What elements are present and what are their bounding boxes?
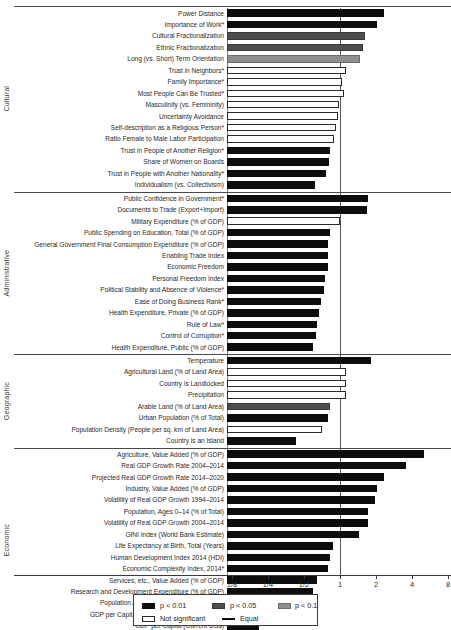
bar-track [227, 472, 451, 483]
chart-row: Population, Ages 0–14 (% of Total) [0, 506, 451, 517]
bar [227, 78, 342, 86]
bar [227, 414, 328, 422]
chart-row: Military Expenditure (% of GDP) [0, 216, 451, 227]
row-label: Cultural Fractionalization [152, 30, 224, 41]
bar-track [227, 378, 451, 389]
bar [227, 496, 375, 504]
bar [227, 309, 319, 317]
bar-track [227, 563, 451, 574]
row-label: Documents to Trade (Export+Import) [117, 204, 224, 215]
x-tick [448, 575, 449, 579]
row-label: Ratio Female to Male Labor Participation [105, 133, 224, 144]
bar [227, 450, 424, 458]
bar [227, 462, 406, 470]
bar-track [227, 53, 451, 64]
chart-row: Political Stability and Absence of Viole… [0, 284, 451, 295]
group-separator [14, 192, 451, 193]
bar [227, 21, 377, 29]
legend-swatch-equal [222, 618, 235, 620]
legend-label-equal: Equal [240, 614, 258, 623]
chart-row: Most People Can Be Trusted* [0, 88, 451, 99]
bar [227, 286, 324, 294]
bar-track [227, 227, 451, 238]
bar [227, 32, 365, 40]
row-label: Trust in People with Another Nationality… [107, 168, 224, 179]
bar-track [227, 122, 451, 133]
bar [227, 403, 330, 411]
bar-track [227, 193, 451, 204]
chart-row: Health Expenditure, Private (% of GDP) [0, 307, 451, 318]
chart-row: Trust in People of Another Religion* [0, 145, 451, 156]
bar [227, 437, 296, 445]
row-label: Arable Land (% of Land Area) [138, 401, 224, 412]
row-label: Public Spending on Education, Total (% o… [84, 227, 224, 238]
legend-swatch-p01 [142, 603, 155, 609]
row-label: Most People Can Be Trusted* [138, 88, 224, 99]
chart-row: Health Expenditure, Public (% of GDP) [0, 342, 451, 353]
bar [227, 519, 368, 527]
bar [227, 90, 344, 98]
row-label: Uncertainty Avoidance [159, 111, 224, 122]
row-label: Volatility of Real GDP Growth 2004–2014 [104, 517, 224, 528]
bar [227, 554, 330, 562]
chart-row: Volatility of Real GDP Growth 1994–2014 [0, 494, 451, 505]
group-separator [14, 354, 451, 355]
bar [227, 112, 338, 120]
bar [227, 170, 326, 178]
row-label: Individualism (vs. Collectivism) [135, 179, 224, 190]
bar [227, 380, 346, 388]
bar-track [227, 330, 451, 341]
bar-track [227, 145, 451, 156]
bar [227, 542, 333, 550]
bar [227, 158, 329, 166]
chart-row: Enabling Trade Index [0, 250, 451, 261]
x-tick-label: 2 [374, 580, 378, 589]
bar-track [227, 88, 451, 99]
bar-track [227, 284, 451, 295]
chart-row: GINI Index (World Bank Estimate) [0, 529, 451, 540]
bar-track [227, 483, 451, 494]
row-label: Self-description as a Religious Person* [111, 122, 224, 133]
bar-track [227, 179, 451, 190]
chart-row: Rule of Law* [0, 319, 451, 330]
bar [227, 135, 334, 143]
chart-row: Individualism (vs. Collectivism) [0, 179, 451, 190]
bar-track [227, 342, 451, 353]
row-label: Importance of Work* [164, 19, 224, 30]
x-tick-label: 8 [446, 580, 450, 589]
bar [227, 298, 321, 306]
row-label: Control of Corruption* [161, 330, 224, 341]
bar [227, 343, 313, 351]
bar-track [227, 517, 451, 528]
bar [227, 217, 340, 225]
chart-row: Share of Women on Boards [0, 156, 451, 167]
chart-row: Urban Population (% of Total) [0, 412, 451, 423]
chart-row: Control of Corruption* [0, 330, 451, 341]
chart-row: Personal Freedom Index [0, 273, 451, 284]
chart-row: Trust in Neighbors* [0, 65, 451, 76]
bar-track [227, 99, 451, 110]
chart-page: Power DistanceImportance of Work*Cultura… [0, 0, 451, 630]
bar [227, 332, 316, 340]
row-label: Country is Landlocked [159, 378, 224, 389]
row-label: Ethnic Fractionalization [156, 42, 224, 53]
x-tick [340, 575, 341, 579]
x-tick [376, 575, 377, 579]
chart-row: Volatility of Real GDP Growth 2004–2014 [0, 517, 451, 528]
row-label: Services, etc., Value Added (% of GDP) [109, 575, 224, 586]
chart-row: Ethnic Fractionalization [0, 42, 451, 53]
bar [227, 485, 377, 493]
bar [227, 206, 367, 214]
chart-row: Temperature [0, 355, 451, 366]
bar-track [227, 296, 451, 307]
group-label-text: Economic [0, 524, 14, 556]
bar-track [227, 261, 451, 272]
bar [227, 67, 346, 75]
bar-track [227, 435, 451, 446]
bar-track [227, 273, 451, 284]
chart-row: Ratio Female to Male Labor Participation [0, 133, 451, 144]
group-label-cultural: Cultural [0, 8, 14, 191]
bar-track [227, 216, 451, 227]
bar [227, 101, 339, 109]
chart-row: Documents to Trade (Export+Import) [0, 204, 451, 215]
